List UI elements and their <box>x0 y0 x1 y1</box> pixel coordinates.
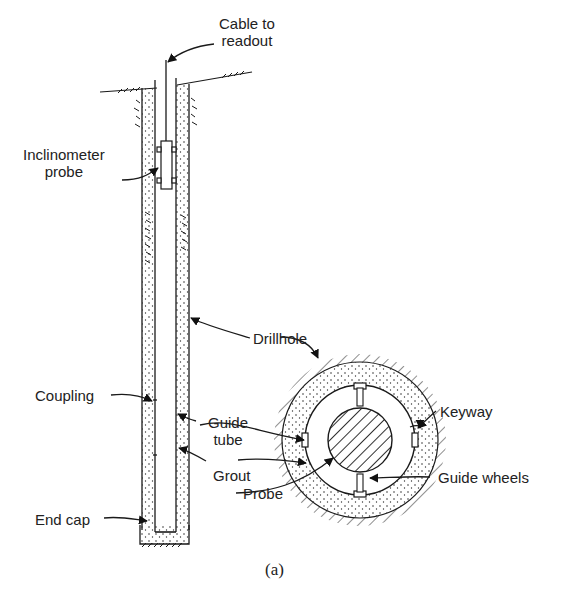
label-keyway: Keyway <box>440 403 493 420</box>
label-grout: Grout <box>213 467 251 484</box>
label-drillhole: Drillhole <box>253 330 307 347</box>
label-end-cap: End cap <box>35 511 90 528</box>
figure-caption: (a) <box>265 560 284 580</box>
label-incl-line2: probe <box>23 163 105 180</box>
label-probe: Probe <box>243 485 283 502</box>
label-cable-line2: readout <box>219 32 275 49</box>
label-guide-line2: tube <box>208 431 248 448</box>
cross-section <box>274 354 446 526</box>
inclinometer-probe-body <box>157 141 176 189</box>
label-guide-wheels: Guide wheels <box>438 469 529 486</box>
label-guide-tube: Guide tube <box>208 414 248 448</box>
label-cable-to-readout: Cable to readout <box>219 15 275 49</box>
label-cable-line1: Cable to <box>219 15 275 32</box>
label-coupling: Coupling <box>35 387 94 404</box>
label-guide-line1: Guide <box>208 414 248 431</box>
label-incl-line1: Inclinometer <box>23 146 105 163</box>
label-inclinometer-probe: Inclinometer probe <box>23 146 105 180</box>
